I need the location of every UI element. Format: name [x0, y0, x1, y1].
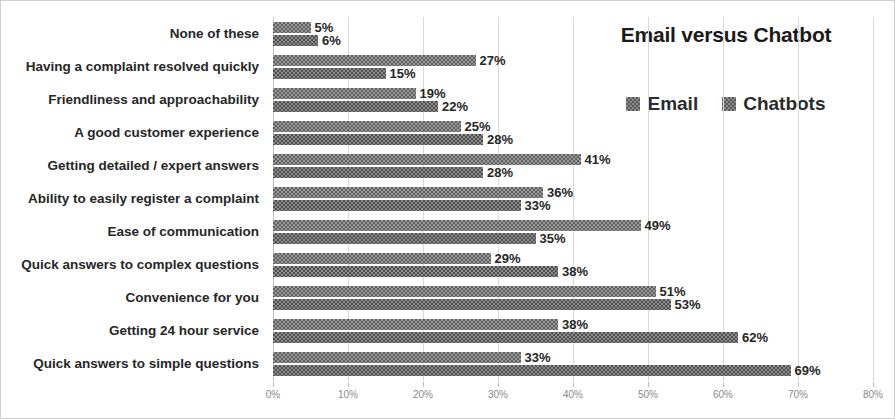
x-axis-tick-label: 30%	[488, 389, 508, 400]
category-label: A good customer experience	[74, 126, 259, 140]
bar-row: 25%28%	[273, 121, 873, 145]
bar-value-label: 62%	[742, 332, 768, 343]
bar-email	[273, 88, 416, 99]
category-label: Friendliness and approachability	[48, 93, 259, 107]
bar-chatbots	[273, 200, 521, 211]
category-label: Quick answers to complex questions	[21, 258, 259, 272]
bar-row: 5%6%	[273, 22, 873, 46]
x-axis-tick-label: 70%	[788, 389, 808, 400]
bar-value-label: 33%	[525, 352, 551, 363]
bar-row: 51%53%	[273, 286, 873, 310]
bar-email	[273, 352, 521, 363]
bar-row: 33%69%	[273, 352, 873, 376]
chart-container: Email versus Chatbot Email Chatbots None…	[0, 0, 895, 419]
bar-value-label: 19%	[420, 88, 446, 99]
bar-value-label: 38%	[562, 319, 588, 330]
x-axis: 0%10%20%30%40%50%60%70%80%	[273, 382, 873, 412]
bar-chatbots	[273, 101, 438, 112]
bar-value-label: 69%	[795, 365, 821, 376]
x-axis-tick-label: 0%	[266, 389, 280, 400]
bar-chatbots	[273, 134, 483, 145]
bar-value-label: 35%	[540, 233, 566, 244]
bar-value-label: 22%	[442, 101, 468, 112]
category-label: Ease of communication	[107, 225, 259, 239]
category-label: Having a complaint resolved quickly	[26, 60, 259, 74]
x-axis-tick-label: 20%	[413, 389, 433, 400]
bar-chatbots	[273, 68, 386, 79]
bar-chatbots	[273, 167, 483, 178]
category-label: Getting detailed / expert answers	[47, 159, 259, 173]
x-axis-tick	[573, 382, 574, 387]
x-axis-tick	[648, 382, 649, 387]
x-axis-tick-label: 80%	[863, 389, 883, 400]
gridline	[873, 17, 874, 381]
x-axis-tick	[423, 382, 424, 387]
bar-email	[273, 319, 558, 330]
bar-email	[273, 22, 311, 33]
bar-email	[273, 55, 476, 66]
bar-row: 29%38%	[273, 253, 873, 277]
x-axis-tick	[273, 382, 274, 387]
category-label: Getting 24 hour service	[109, 324, 259, 338]
x-axis-tick-label: 50%	[638, 389, 658, 400]
bar-chatbots	[273, 332, 738, 343]
bar-email	[273, 286, 656, 297]
bar-chatbots	[273, 266, 558, 277]
bar-row: 49%35%	[273, 220, 873, 244]
x-axis-tick-label: 60%	[713, 389, 733, 400]
bar-value-label: 5%	[315, 22, 334, 33]
bar-value-label: 49%	[645, 220, 671, 231]
bar-value-label: 28%	[487, 134, 513, 145]
bar-value-label: 33%	[525, 200, 551, 211]
x-axis-tick-label: 40%	[563, 389, 583, 400]
category-axis-labels: None of theseHaving a complaint resolved…	[1, 17, 267, 381]
bar-value-label: 27%	[480, 55, 506, 66]
x-axis-tick-label: 10%	[338, 389, 358, 400]
bar-value-label: 53%	[675, 299, 701, 310]
category-label: Quick answers to simple questions	[33, 357, 259, 371]
bar-value-label: 38%	[562, 266, 588, 277]
x-axis-tick	[873, 382, 874, 387]
bar-chatbots	[273, 365, 791, 376]
bar-email	[273, 253, 491, 264]
x-axis-tick	[723, 382, 724, 387]
bar-row: 19%22%	[273, 88, 873, 112]
bar-value-label: 41%	[585, 154, 611, 165]
bar-value-label: 15%	[390, 68, 416, 79]
bar-row: 36%33%	[273, 187, 873, 211]
category-label: Convenience for you	[125, 291, 259, 305]
bar-value-label: 28%	[487, 167, 513, 178]
category-label: Ability to easily register a complaint	[28, 192, 259, 206]
x-axis-tick	[348, 382, 349, 387]
bar-rows: 5%6%27%15%19%22%25%28%41%28%36%33%49%35%…	[273, 17, 873, 381]
bar-email	[273, 154, 581, 165]
bar-row: 38%62%	[273, 319, 873, 343]
x-axis-tick	[498, 382, 499, 387]
bar-email	[273, 121, 461, 132]
bar-value-label: 36%	[547, 187, 573, 198]
bar-email	[273, 220, 641, 231]
bar-email	[273, 187, 543, 198]
bar-chatbots	[273, 233, 536, 244]
bar-value-label: 25%	[465, 121, 491, 132]
bar-value-label: 51%	[660, 286, 686, 297]
bar-chatbots	[273, 35, 318, 46]
bar-row: 41%28%	[273, 154, 873, 178]
bar-row: 27%15%	[273, 55, 873, 79]
category-label: None of these	[170, 27, 259, 41]
bar-value-label: 6%	[322, 35, 341, 46]
bar-value-label: 29%	[495, 253, 521, 264]
bar-chatbots	[273, 299, 671, 310]
plot-area: 5%6%27%15%19%22%25%28%41%28%36%33%49%35%…	[273, 17, 873, 381]
x-axis-tick	[798, 382, 799, 387]
